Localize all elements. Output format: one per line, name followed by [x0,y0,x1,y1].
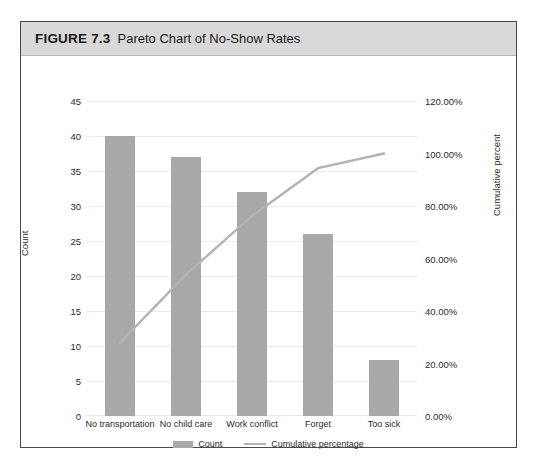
y-axis-right-ticks: 0.00% 20.00% 40.00% 60.00% 80.00% 100.00… [425,101,495,416]
legend-entry-count: Count [173,439,222,449]
y-tick-left-9: 45 [70,96,81,107]
y-tick-left-4: 20 [70,271,81,282]
y-tick-right-0: 0.00% [425,411,452,422]
y-tick-right-3: 60.00% [425,253,457,264]
x-label-no-child-care: No child care [160,419,213,429]
figure-frame: FIGURE 7.3 Pareto Chart of No-Show Rates… [20,21,517,448]
y-tick-left-5: 25 [70,236,81,247]
y-tick-left-6: 30 [70,201,81,212]
legend-entry-cumulative-percentage: Cumulative percentage [244,439,364,449]
y-axis-left-ticks: 0 5 10 15 20 25 30 35 40 45 [43,101,81,416]
legend-swatch-cumulative-icon [244,443,266,445]
y-tick-left-2: 10 [70,341,81,352]
y-tick-left-3: 15 [70,306,81,317]
x-label-work-conflict: Work conflict [226,419,277,429]
legend-label-cumulative-percentage: Cumulative percentage [271,439,364,449]
figure-caption: Pareto Chart of No-Show Rates [118,31,301,46]
y-tick-right-2: 40.00% [425,306,457,317]
y-tick-right-4: 80.00% [425,201,457,212]
legend-label-count: Count [198,439,222,449]
y-tick-left-0: 0 [76,411,81,422]
x-label-no-transportation: No transportation [85,419,154,429]
cumulative-percentage-line [87,101,417,416]
y-tick-right-5: 100.00% [425,148,463,159]
legend-swatch-count-icon [173,441,193,448]
y-tick-right-1: 20.00% [425,358,457,369]
figure-title-banner: FIGURE 7.3 Pareto Chart of No-Show Rates [21,22,516,56]
chart-legend: Count Cumulative percentage [21,439,516,449]
y-tick-right-6: 120.00% [425,96,463,107]
plot-area [87,101,417,416]
pareto-chart: Count Cumulative percent 0 5 10 15 20 25… [21,56,516,449]
x-label-too-sick: Too sick [368,419,401,429]
figure-number: FIGURE 7.3 [35,31,111,46]
x-axis-labels: No transportation No child care Work con… [87,419,417,435]
x-label-forget: Forget [305,419,331,429]
y-tick-left-1: 5 [76,376,81,387]
y-tick-left-8: 40 [70,131,81,142]
y-tick-left-7: 35 [70,166,81,177]
y-axis-left-title: Count [19,231,30,256]
